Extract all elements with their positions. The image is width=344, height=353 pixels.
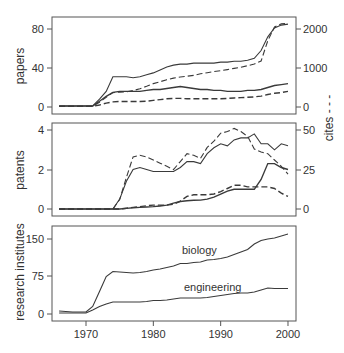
- y-tick-label: 0: [38, 308, 44, 320]
- x-tick-label: 2000: [276, 328, 300, 340]
- x-tick-label: 1990: [208, 328, 232, 340]
- panel-bottom-ylabel: research institutes: [13, 223, 27, 320]
- y-tick-label: 4: [38, 124, 44, 136]
- figure: 0408001000200002402550075150197019801990…: [0, 0, 344, 353]
- y-tick-label: 75: [32, 270, 44, 282]
- right-ylabel-cites: cites - - -: [322, 95, 336, 142]
- panel-top-ylabel: papers: [13, 48, 27, 85]
- x-tick-label: 1970: [74, 328, 98, 340]
- y-tick-label: 2: [38, 164, 44, 176]
- panel-middle-ylabel: patents: [13, 150, 27, 189]
- y-right-tick-label: 0: [303, 203, 309, 215]
- series-line-biology: [59, 234, 288, 312]
- y-right-tick-label: 1000: [303, 62, 327, 74]
- y-tick-label: 80: [32, 23, 44, 35]
- annotation-engineering: engineering: [184, 281, 242, 293]
- panel-bottom-frame: [52, 226, 296, 321]
- y-tick-label: 150: [26, 233, 44, 245]
- series-layer: [59, 23, 288, 313]
- y-right-tick-label: 2000: [303, 23, 327, 35]
- y-tick-label: 0: [38, 203, 44, 215]
- x-tick-label: 1980: [141, 328, 165, 340]
- series-line-cites-engineering: [59, 91, 288, 106]
- series-line-papers-engineering: [59, 84, 288, 106]
- series-line-engineering: [59, 288, 288, 313]
- series-line-papers-biology: [59, 24, 288, 106]
- ticks-layer: 0408001000200002402550075150197019801990…: [26, 23, 328, 340]
- y-right-tick-label: 50: [303, 124, 315, 136]
- series-line-patents-biology: [59, 134, 288, 209]
- y-right-tick-label: 0: [303, 101, 309, 113]
- series-line-cites-biology: [59, 128, 288, 209]
- y-tick-label: 0: [38, 101, 44, 113]
- y-right-tick-label: 25: [303, 164, 315, 176]
- annotation-biology: biology: [182, 244, 217, 256]
- y-tick-label: 40: [32, 62, 44, 74]
